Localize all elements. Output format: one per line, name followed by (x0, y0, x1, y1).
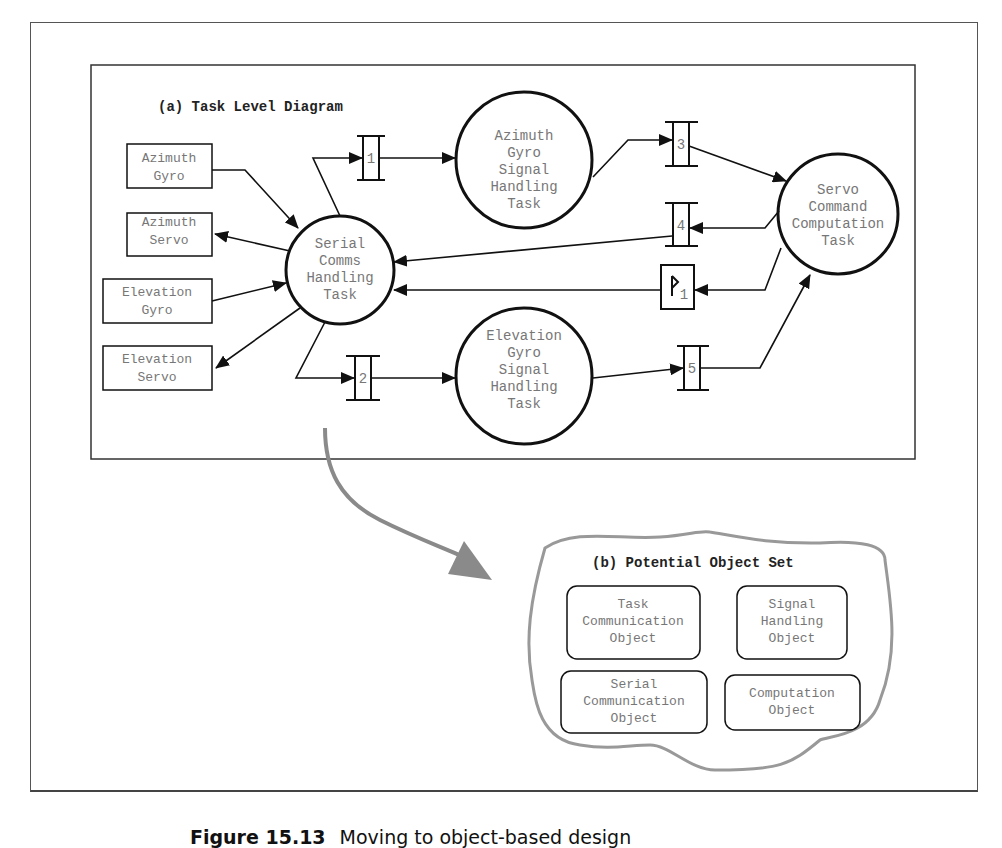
svg-text:Computation: Computation (749, 686, 835, 701)
arrow-channel-4-to-serial (394, 236, 672, 262)
svg-text:Task: Task (507, 396, 541, 412)
svg-text:5: 5 (688, 361, 696, 377)
svg-text:Communication: Communication (583, 694, 684, 709)
channel-4: 4 (665, 203, 698, 246)
arrow-serial-to-channel-2 (296, 322, 354, 378)
svg-text:1: 1 (367, 151, 375, 167)
transition-arrow (325, 428, 492, 580)
arrowhead-icon (448, 541, 492, 580)
svg-text:Servo: Servo (817, 182, 859, 198)
object-computation: Computation Object (725, 675, 860, 730)
svg-text:Object: Object (610, 631, 657, 646)
arrow-serial-to-azimuth-servo (215, 234, 290, 251)
svg-text:1: 1 (680, 287, 688, 303)
arrow-servo-to-flag (695, 248, 781, 290)
object-task-communication: Task Communication Object (567, 586, 700, 659)
svg-text:Task: Task (617, 597, 648, 612)
svg-text:Elevation: Elevation (486, 328, 562, 344)
svg-text:Azimuth: Azimuth (142, 151, 197, 166)
flag-1: 1 (661, 265, 694, 309)
task-azimuth-gyro-signal: Azimuth Gyro Signal Handling Task (456, 92, 592, 228)
svg-text:Servo: Servo (149, 233, 188, 248)
arrow-elevation-to-channel-5 (593, 368, 683, 378)
svg-text:Object: Object (769, 631, 816, 646)
arrow-channel-5-to-servo (700, 275, 810, 368)
svg-text:3: 3 (677, 137, 685, 153)
svg-text:Task: Task (821, 233, 855, 249)
figure-caption: Figure 15.13Moving to object-based desig… (190, 826, 631, 848)
arrow-serial-to-channel-1 (313, 158, 362, 216)
arrow-channel-3-to-servo (689, 146, 786, 181)
svg-text:Signal: Signal (499, 162, 549, 178)
panel-a-title: (a) Task Level Diagram (158, 99, 343, 115)
arrow-azimuth-gyro-to-serial (212, 170, 298, 228)
svg-text:Task: Task (323, 287, 357, 303)
arrow-elevation-gyro-to-serial (212, 283, 286, 301)
external-box-elevation-servo: Elevation Servo (103, 346, 212, 390)
svg-text:Gyro: Gyro (153, 169, 184, 184)
svg-text:Object: Object (769, 703, 816, 718)
svg-text:Gyro: Gyro (507, 145, 541, 161)
channel-3: 3 (665, 122, 698, 166)
svg-text:Comms: Comms (319, 253, 361, 269)
external-box-azimuth-gyro: Azimuth Gyro (127, 144, 212, 188)
arrow-serial-to-elevation-servo (216, 308, 300, 368)
svg-text:Elevation: Elevation (122, 352, 192, 367)
svg-text:Signal: Signal (769, 597, 816, 612)
svg-text:Gyro: Gyro (141, 303, 172, 318)
svg-text:Azimuth: Azimuth (495, 128, 554, 144)
arrow-azimuth-to-channel-3 (593, 140, 672, 177)
task-servo-command: Servo Command Computation Task (778, 154, 898, 274)
caption-figure-number: Figure 15.13 (190, 826, 326, 848)
svg-text:Handling: Handling (490, 379, 557, 395)
svg-text:Elevation: Elevation (122, 285, 192, 300)
object-signal-handling: Signal Handling Object (737, 586, 847, 659)
svg-text:Computation: Computation (792, 216, 884, 232)
svg-text:Gyro: Gyro (507, 345, 541, 361)
external-box-azimuth-servo: Azimuth Servo (127, 213, 212, 256)
svg-text:2: 2 (359, 371, 367, 387)
object-serial-communication: Serial Communication Object (561, 671, 707, 733)
external-box-elevation-gyro: Elevation Gyro (103, 279, 212, 323)
caption-text: Moving to object-based design (340, 826, 632, 848)
svg-text:4: 4 (677, 218, 685, 234)
svg-text:Handling: Handling (490, 179, 557, 195)
svg-text:Serial: Serial (315, 236, 365, 252)
svg-text:Handling: Handling (761, 614, 823, 629)
panel-b-title: (b) Potential Object Set (592, 555, 794, 571)
task-elevation-gyro-signal: Elevation Gyro Signal Handling Task (456, 308, 592, 444)
svg-text:Azimuth: Azimuth (142, 215, 197, 230)
svg-text:Serial: Serial (611, 677, 658, 692)
task-serial-comms: Serial Comms Handling Task (286, 216, 394, 324)
svg-text:Servo: Servo (137, 370, 176, 385)
svg-text:Signal: Signal (499, 362, 549, 378)
svg-text:Communication: Communication (582, 614, 683, 629)
svg-text:Handling: Handling (306, 270, 373, 286)
svg-text:Command: Command (809, 199, 868, 215)
arrow-servo-to-channel-4 (690, 211, 779, 228)
svg-text:Task: Task (507, 196, 541, 212)
svg-text:Object: Object (611, 711, 658, 726)
